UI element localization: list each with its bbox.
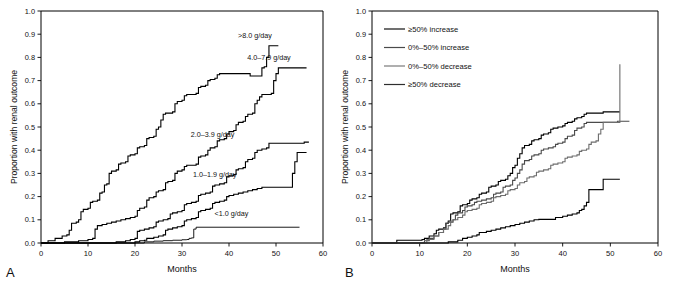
panel-b-y-tick-labels: 0.00.10.20.30.40.50.60.70.80.91.0 [356, 7, 366, 248]
x-tick-label: 40 [558, 249, 566, 258]
panel-a-x-axis-label: Months [167, 264, 197, 274]
x-tick-label: 30 [511, 249, 519, 258]
panel-b-plot: ≥50% increase0%–50% increase0%–50% decre… [337, 0, 674, 284]
y-tick-label: 0.9 [356, 30, 366, 39]
x-tick-label: 20 [463, 249, 471, 258]
panel-a-curves [41, 46, 309, 243]
y-tick-label: 0.4 [356, 146, 366, 155]
x-tick-label: 60 [654, 249, 662, 258]
y-tick-label: 0.9 [25, 30, 35, 39]
panel-a-x-tick-labels: 0102030405060 [39, 249, 327, 258]
panel-a-plot: >8.0 g/day4.0–7.9 g/day2.0–3.9 g/day1.0–… [0, 0, 337, 284]
legend-label: 0%–50% increase [408, 43, 469, 52]
y-tick-label: 0.6 [25, 99, 35, 108]
panel-b-legend: ≥50% increase0%–50% increase0%–50% decre… [384, 25, 472, 90]
panel-b-x-tick-labels: 0102030405060 [370, 249, 662, 258]
legend-label: ≥50% increase [408, 25, 458, 34]
panel-b-x-axis-label: Months [500, 264, 530, 274]
y-tick-label: 0.8 [356, 53, 366, 62]
x-tick-label: 10 [84, 249, 92, 258]
y-tick-label: 0.1 [356, 215, 366, 224]
panel-b-curves [372, 64, 629, 243]
legend-label: ≥50% decrease [408, 80, 461, 89]
panel-a-y-axis-label: Proportion with renal outcome [9, 70, 19, 184]
legend-label: 0%–50% decrease [408, 62, 472, 71]
panel-b-y-ticks [369, 11, 373, 243]
y-tick-label: 0.0 [25, 239, 35, 248]
panel-b-y-axis-label: Proportion with renal outcome [340, 70, 350, 184]
y-tick-label: 1.0 [356, 7, 366, 16]
curve-annotation: 2.0–3.9 g/day [191, 130, 235, 139]
x-tick-label: 30 [178, 249, 186, 258]
y-tick-label: 0.2 [25, 192, 35, 201]
y-tick-label: 0.3 [356, 169, 366, 178]
y-tick-label: 0.2 [356, 192, 366, 201]
y-tick-label: 0.7 [356, 76, 366, 85]
y-tick-label: 0.5 [25, 123, 35, 132]
y-tick-label: 0.8 [25, 53, 35, 62]
x-tick-label: 20 [131, 249, 139, 258]
panel-b: ≥50% increase0%–50% increase0%–50% decre… [337, 0, 674, 284]
x-tick-label: 50 [272, 249, 280, 258]
figure-container: >8.0 g/day4.0–7.9 g/day2.0–3.9 g/day1.0–… [0, 0, 675, 284]
y-tick-label: 0.5 [356, 123, 366, 132]
curve-annotation: 4.0–7.9 g/day [247, 53, 291, 62]
x-tick-label: 10 [415, 249, 423, 258]
y-tick-label: 0.6 [356, 99, 366, 108]
panel-a-y-tick-labels: 0.00.10.20.30.40.50.60.70.80.91.0 [25, 7, 35, 248]
panel-a: >8.0 g/day4.0–7.9 g/day2.0–3.9 g/day1.0–… [0, 0, 337, 284]
curve-annotation: <1.0 g/day [214, 209, 248, 218]
y-tick-label: 0.4 [25, 146, 35, 155]
curve-3 [372, 64, 620, 243]
curve-2 [372, 121, 629, 243]
x-tick-label: 0 [39, 249, 43, 258]
curve-4 [372, 179, 620, 243]
panel-a-curve-labels: >8.0 g/day4.0–7.9 g/day2.0–3.9 g/day1.0–… [191, 31, 291, 219]
x-tick-label: 40 [225, 249, 233, 258]
panel-a-axes [41, 11, 323, 243]
curve-1 [372, 112, 620, 243]
y-tick-label: 0.0 [356, 239, 366, 248]
curve-annotation: 1.0–1.9 g/day [193, 170, 237, 179]
x-tick-label: 0 [370, 249, 374, 258]
curve-4 [41, 153, 307, 243]
panel-a-letter: A [6, 265, 15, 280]
y-tick-label: 0.1 [25, 215, 35, 224]
x-tick-label: 60 [319, 249, 327, 258]
y-tick-label: 1.0 [25, 7, 35, 16]
y-tick-label: 0.7 [25, 76, 35, 85]
panel-a-y-ticks [38, 11, 42, 243]
y-tick-label: 0.3 [25, 169, 35, 178]
curve-annotation: >8.0 g/day [238, 31, 272, 40]
panel-b-letter: B [345, 265, 354, 280]
x-tick-label: 50 [606, 249, 614, 258]
